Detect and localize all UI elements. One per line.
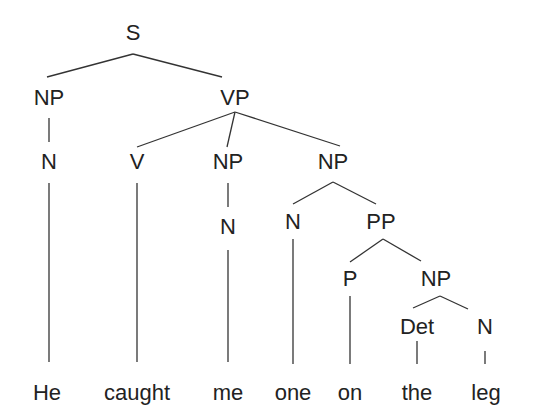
node-vp: VP xyxy=(220,85,249,110)
tree-edge xyxy=(47,54,133,77)
word-leg: leg xyxy=(471,380,500,405)
node-v: V xyxy=(130,149,145,174)
node-np3: NP xyxy=(318,149,349,174)
node-n1: N xyxy=(41,149,57,174)
tree-edge xyxy=(293,182,333,204)
parse-tree: SNPVPNVNPNPNNPPPNPDetN Hecaughtmeoneonth… xyxy=(0,0,537,417)
word-He: He xyxy=(33,380,61,405)
tree-edge xyxy=(350,239,383,262)
word-caught: caught xyxy=(104,380,170,405)
node-n4: N xyxy=(477,314,493,339)
node-np1: NP xyxy=(34,85,65,110)
node-n3: N xyxy=(285,209,301,234)
word-me: me xyxy=(213,380,244,405)
node-np4: NP xyxy=(421,266,452,291)
terminal-words: Hecaughtmeoneontheleg xyxy=(33,380,501,405)
word-one: one xyxy=(275,380,312,405)
node-pp: PP xyxy=(366,209,395,234)
node-s: S xyxy=(126,20,141,45)
tree-edge xyxy=(383,239,421,261)
tree-edge xyxy=(137,112,235,147)
word-the: the xyxy=(402,380,433,405)
tree-edge xyxy=(235,112,340,146)
tree-nodes: SNPVPNVNPNPNNPPPNPDetN xyxy=(34,20,493,339)
tree-edge xyxy=(440,296,468,309)
node-p: P xyxy=(343,266,358,291)
word-on: on xyxy=(338,380,362,405)
tree-edge xyxy=(413,296,440,308)
tree-edge xyxy=(133,54,222,77)
tree-edge xyxy=(227,112,235,147)
node-n2: N xyxy=(220,214,236,239)
node-det: Det xyxy=(400,314,434,339)
tree-edge xyxy=(333,182,376,204)
node-np2: NP xyxy=(213,149,244,174)
